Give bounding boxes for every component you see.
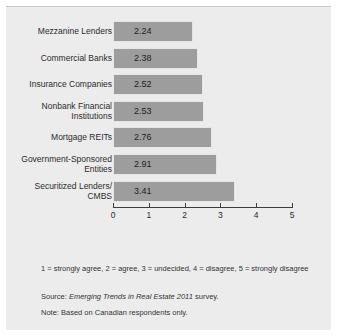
bar — [113, 101, 204, 122]
bar-row: Securitized Lenders/ CMBS3.41 — [6, 181, 331, 202]
bar — [113, 181, 235, 202]
axis-tick — [292, 203, 293, 208]
axis-tick-label: 4 — [246, 210, 266, 220]
axis-tick-label: 5 — [282, 210, 302, 220]
bar-value-label: 2.91 — [134, 159, 152, 170]
source-prefix: Source: — [41, 292, 69, 301]
category-label: Mezzanine Lenders — [12, 26, 112, 36]
bar-row: Mezzanine Lenders2.24 — [6, 21, 331, 42]
bar — [113, 154, 217, 175]
category-label: Insurance Companies — [12, 79, 112, 89]
bar-row: Commercial Banks2.38 — [6, 48, 331, 69]
category-label: Commercial Banks — [12, 53, 112, 63]
base-note: Note: Based on Canadian respondents only… — [41, 308, 188, 318]
bar-value-label: 2.38 — [134, 53, 152, 64]
bar — [113, 21, 193, 42]
axis-tick — [149, 203, 150, 208]
axis-tick — [220, 203, 221, 208]
axis-tick-label: 3 — [210, 210, 230, 220]
bar-value-label: 2.52 — [134, 79, 152, 90]
scale-note: 1 = strongly agree, 2 = agree, 3 = undec… — [41, 264, 308, 274]
bar-value-label: 2.76 — [134, 132, 152, 143]
bar-row: Government-Sponsored Entities2.91 — [6, 154, 331, 175]
category-label: Mortgage REITs — [12, 132, 112, 142]
axis-tick-label: 0 — [103, 210, 123, 220]
bar — [113, 48, 198, 69]
bar-row: Mortgage REITs2.76 — [6, 127, 331, 148]
bar-value-label: 3.41 — [134, 186, 152, 197]
bar-value-label: 2.24 — [134, 26, 152, 37]
bar-row: Nonbank Financial Institutions2.53 — [6, 101, 331, 122]
axis-tick — [185, 203, 186, 208]
plot-area: Mezzanine Lenders2.24Commercial Banks2.3… — [6, 7, 331, 212]
bar-row: Insurance Companies2.52 — [6, 74, 331, 95]
axis-tick-label: 1 — [139, 210, 159, 220]
bar — [113, 127, 212, 148]
axis-tick-label: 2 — [175, 210, 195, 220]
source-note: Source: Emerging Trends in Real Estate 2… — [41, 292, 219, 302]
category-label: Nonbank Financial Institutions — [12, 101, 112, 121]
axis-tick — [113, 203, 114, 208]
category-label: Government-Sponsored Entities — [12, 154, 112, 174]
x-axis — [113, 207, 292, 208]
chart-figure: Mezzanine Lenders2.24Commercial Banks2.3… — [6, 6, 331, 330]
bar-value-label: 2.53 — [134, 106, 152, 117]
source-suffix: survey. — [193, 292, 219, 301]
source-title: Emerging Trends in Real Estate 2011 — [69, 292, 193, 301]
axis-tick — [256, 203, 257, 208]
category-label: Securitized Lenders/ CMBS — [12, 181, 112, 201]
bar — [113, 74, 203, 95]
